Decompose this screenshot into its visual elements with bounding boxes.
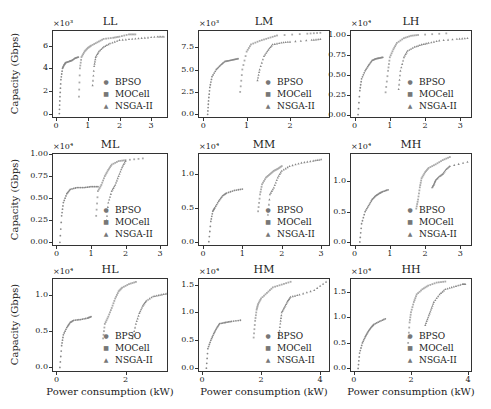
data-point-nsga-ii <box>137 37 139 39</box>
y-tick-mark <box>49 198 52 199</box>
legend-label: BPSO <box>277 76 303 88</box>
data-point-bpso <box>60 79 62 81</box>
data-point-bpso <box>62 337 64 339</box>
panel-title: HH <box>391 263 431 276</box>
data-point-bpso <box>60 228 62 230</box>
data-point-nsga-ii <box>149 297 151 299</box>
data-point-bpso <box>208 93 210 95</box>
legend-label: MOCell <box>115 88 150 100</box>
data-point-mocell <box>413 301 415 303</box>
data-point-nsga-ii <box>443 39 445 41</box>
data-point-bpso <box>59 91 61 93</box>
data-point-mocell <box>79 82 81 84</box>
data-point-mocell <box>428 167 430 169</box>
data-point-nsga-ii <box>162 293 164 295</box>
y-tick-label: 1.5 <box>316 287 346 296</box>
y-tick-label: 0.5 <box>164 335 194 344</box>
data-point-nsga-ii <box>457 284 459 286</box>
data-point-bpso <box>364 337 366 339</box>
data-point-nsga-ii <box>115 182 117 184</box>
data-point-nsga-ii <box>300 40 302 42</box>
data-point-mocell <box>414 297 416 299</box>
data-point-bpso <box>237 58 239 60</box>
data-point-mocell <box>254 320 256 322</box>
data-point-bpso <box>211 76 213 78</box>
legend: ●BPSO■MOCell▲NSGA-II <box>264 204 315 240</box>
y-tick-label: 2.5 <box>164 87 194 96</box>
data-point-mocell <box>279 284 281 286</box>
data-point-mocell <box>117 292 119 294</box>
data-point-nsga-ii <box>93 70 95 72</box>
y-tick-label: 1.0 <box>164 169 194 178</box>
data-point-mocell <box>313 32 315 34</box>
legend-label: NSGA-II <box>115 100 153 112</box>
y-tick-label: 0.0 <box>164 237 194 246</box>
data-point-nsga-ii <box>398 88 400 90</box>
data-point-nsga-ii <box>289 165 291 167</box>
data-point-bpso <box>58 113 60 115</box>
data-point-bpso <box>60 87 62 89</box>
data-point-mocell <box>129 159 131 161</box>
data-point-mocell <box>98 41 100 43</box>
data-point-nsga-ii <box>294 163 296 165</box>
data-point-mocell <box>107 318 109 320</box>
data-point-mocell <box>281 284 283 286</box>
data-point-nsga-ii <box>91 84 93 86</box>
x-tick-label: 1 <box>382 121 398 130</box>
data-point-bpso <box>241 188 243 190</box>
legend-label: NSGA-II <box>115 354 153 366</box>
data-point-mocell <box>396 42 398 44</box>
x-tick-label: 0 <box>195 121 211 130</box>
data-point-mocell <box>96 203 98 205</box>
data-point-mocell <box>427 285 429 287</box>
data-point-mocell <box>263 39 265 41</box>
data-point-nsga-ii <box>424 43 426 45</box>
data-point-mocell <box>393 47 395 49</box>
data-point-mocell <box>245 55 247 57</box>
data-point-mocell <box>114 298 116 300</box>
data-point-bpso <box>63 199 65 201</box>
data-point-mocell <box>78 96 80 98</box>
data-point-bpso <box>62 205 64 207</box>
data-point-nsga-ii <box>458 163 460 165</box>
data-point-mocell <box>429 284 431 286</box>
data-point-mocell <box>276 285 278 287</box>
data-point-mocell <box>109 311 111 313</box>
data-point-bpso <box>362 342 364 344</box>
square-marker-icon: ■ <box>406 216 414 228</box>
data-point-nsga-ii <box>134 37 136 39</box>
data-point-nsga-ii <box>398 83 400 85</box>
data-point-nsga-ii <box>435 40 437 42</box>
data-point-mocell <box>264 178 266 180</box>
legend-label: MOCell <box>115 216 150 228</box>
data-point-bpso <box>370 200 372 202</box>
x-tick-mark <box>126 246 127 249</box>
y-tick-label: 0.5 <box>164 203 194 212</box>
data-point-nsga-ii <box>453 164 455 166</box>
x-tick-mark <box>247 118 248 121</box>
data-point-nsga-ii <box>144 37 146 39</box>
data-point-mocell <box>260 191 262 193</box>
data-point-nsga-ii <box>291 164 293 166</box>
data-point-bpso <box>59 241 61 243</box>
data-point-mocell <box>299 33 301 35</box>
y-tick-label: 1.0 <box>316 312 346 321</box>
x-tick-label: 0 <box>195 249 211 258</box>
tri-marker-icon: ▲ <box>406 228 414 240</box>
x-tick-mark <box>468 372 469 375</box>
dot-marker-icon: ● <box>264 204 272 216</box>
data-point-nsga-ii <box>426 42 428 44</box>
data-point-nsga-ii <box>417 45 419 47</box>
data-point-bpso <box>63 332 65 334</box>
data-point-bpso <box>211 213 213 215</box>
data-point-nsga-ii <box>313 289 315 291</box>
data-point-mocell <box>388 67 390 69</box>
data-point-mocell <box>112 305 114 307</box>
x-tick-label: 2 <box>118 249 134 258</box>
x-tick-mark <box>355 118 356 121</box>
data-point-mocell <box>272 36 274 38</box>
data-point-mocell <box>106 172 108 174</box>
tri-marker-icon: ▲ <box>102 228 110 240</box>
data-point-mocell <box>100 40 102 42</box>
y-axis-label: Capacity (Gbps) <box>9 275 20 375</box>
